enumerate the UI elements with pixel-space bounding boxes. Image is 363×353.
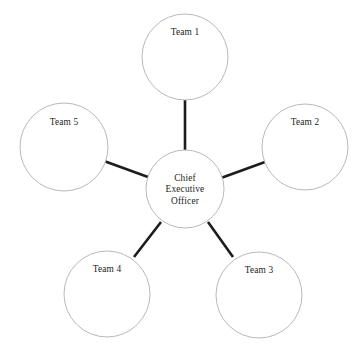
node-team-5[interactable]: Team 5 [20, 103, 108, 191]
ceo-label-line: Chief [174, 173, 196, 183]
org-chart-diagram: Team 1 Team 2 Team 3 Team 4 Team 5 Chief… [0, 0, 363, 353]
team-2-label: Team 2 [291, 117, 320, 127]
connector-ceo-to-team-3 [208, 222, 233, 257]
connector-ceo-to-team-5 [104, 161, 148, 177]
connector-ceo-to-team-4 [134, 222, 161, 257]
team-4-label: Team 4 [93, 264, 122, 274]
team-3-label: Team 3 [245, 265, 274, 275]
node-team-2[interactable]: Team 2 [262, 104, 348, 190]
ceo-label-line: Executive [166, 184, 205, 194]
node-team-3[interactable]: Team 3 [216, 252, 302, 338]
team-1-label: Team 1 [171, 27, 200, 37]
connector-ceo-to-team-2 [221, 162, 265, 178]
team-5-label: Team 5 [50, 117, 79, 127]
node-team-1[interactable]: Team 1 [142, 14, 228, 100]
node-chief-executive-officer[interactable]: ChiefExecutiveOfficer [146, 150, 224, 228]
ceo-label-line: Officer [171, 196, 200, 206]
node-team-4[interactable]: Team 4 [64, 251, 150, 337]
org-chart-canvas: Team 1 Team 2 Team 3 Team 4 Team 5 Chief… [0, 0, 363, 353]
